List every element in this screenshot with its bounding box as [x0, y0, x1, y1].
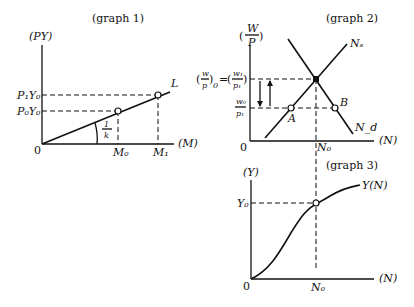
- graph-1-y-axis-label: (PY): [29, 30, 52, 43]
- graph-1-title: (graph 1): [92, 12, 144, 25]
- graph-2-point-a-label: A: [287, 112, 296, 125]
- graph-3-x-axis-label: (N): [379, 272, 397, 285]
- graph-1-ytick-p1y0: P₁Y₀: [16, 89, 41, 102]
- graph-2-point-a: [288, 105, 294, 111]
- graph-2-point-b-label: B: [339, 96, 348, 109]
- svg-text:w: w: [202, 69, 209, 78]
- graph-1-xtick-m0: M₀: [112, 146, 129, 159]
- graph-2-xtick-n0: N₀: [316, 141, 332, 154]
- graph-3-point-y0: [313, 200, 319, 206]
- graph-2-ytick-lower-den: p₁: [236, 109, 244, 118]
- graph-2-y-label-lparen: (: [239, 30, 243, 43]
- svg-text:(: (: [196, 73, 200, 86]
- graph-2: (graph 2) ( W P ) (N) 0 Nₛ N_d A B (: [196, 12, 397, 270]
- graph-2-y-label-den: P: [247, 36, 256, 49]
- graph-1-slope-den: k: [104, 131, 109, 140]
- diagram-root: (graph 1) (PY) (M) 0 L 1 k P₁Y₀ P₀Y₀ M₀ …: [0, 0, 414, 307]
- graph-2-x-axis-label: (N): [379, 134, 397, 147]
- svg-text:0: 0: [213, 81, 218, 90]
- graph-3-production-curve: [251, 185, 360, 279]
- graph-2-y-label-rparen: ): [259, 30, 263, 43]
- graph-1-origin: 0: [34, 144, 41, 157]
- graph-2-ytick-lower-num: w₀: [236, 97, 247, 106]
- graph-2-arrow-down-head: [257, 101, 263, 107]
- graph-3-curve-label: Y(N): [362, 179, 387, 192]
- graph-3-y-axis-label: (Y): [243, 166, 259, 179]
- graph-3-origin: 0: [243, 280, 250, 293]
- graph-3: (graph 3) (Y) (N) 0 Y(N) Y₀ N₀: [237, 159, 397, 294]
- graph-2-origin: 0: [240, 141, 247, 154]
- svg-text:w₁: w₁: [233, 69, 243, 78]
- graph-1-xtick-m1: M₁: [152, 146, 169, 159]
- graph-3-xtick-n0: N₀: [310, 281, 326, 294]
- graph-1-slope-arc: [95, 123, 97, 144]
- graph-1-line-label: L: [170, 77, 178, 90]
- graph-2-point-b: [332, 105, 338, 111]
- graph-2-demand-label: N_d: [354, 121, 377, 134]
- graph-1-point-m0: [115, 108, 121, 114]
- graph-2-equilibrium-point: [313, 76, 319, 82]
- graph-1-point-m1: [155, 92, 161, 98]
- graph-1: (graph 1) (PY) (M) 0 L 1 k P₁Y₀ P₀Y₀ M₀ …: [16, 12, 198, 159]
- graph-1-ytick-p0y0: P₀Y₀: [16, 105, 41, 118]
- svg-text:p: p: [202, 81, 207, 90]
- graph-3-ytick-y0: Y₀: [237, 197, 249, 210]
- graph-3-title: (graph 3): [326, 159, 378, 172]
- graph-2-ytick-upper: ( w p ) 0 = ( w₁ p₁ ): [196, 69, 247, 90]
- graph-2-supply-label: Nₛ: [349, 37, 364, 50]
- svg-text:(: (: [227, 73, 231, 86]
- graph-2-arrow-up-head: [267, 80, 273, 86]
- graph-2-supply-line: [265, 44, 347, 138]
- svg-text:): ): [243, 73, 247, 86]
- diagram-canvas: (graph 1) (PY) (M) 0 L 1 k P₁Y₀ P₀Y₀ M₀ …: [0, 0, 414, 307]
- graph-1-x-axis-label: (M): [178, 137, 198, 150]
- svg-text:p₁: p₁: [233, 81, 241, 90]
- graph-2-demand-line: [288, 39, 353, 134]
- graph-2-title: (graph 2): [326, 12, 378, 25]
- graph-1-slope-num: 1: [104, 120, 109, 129]
